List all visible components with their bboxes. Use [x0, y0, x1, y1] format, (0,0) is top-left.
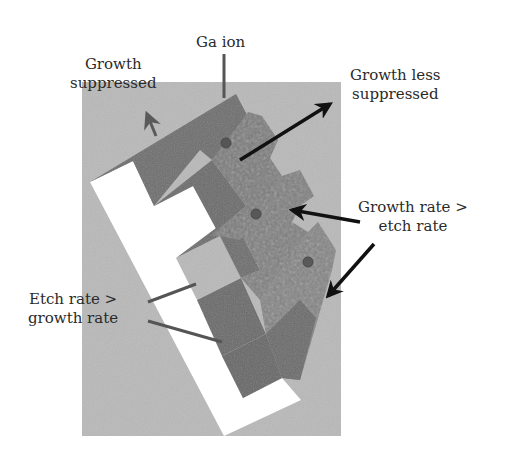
label-etch-rate-gt-growth-rate: Etch rate > growth rate	[28, 290, 118, 328]
label-growth-less-suppressed: Growth less suppressed	[350, 66, 441, 104]
ga-ion-dot	[221, 138, 231, 148]
label-growth-suppressed: Growth suppressed	[70, 55, 156, 93]
label-ga-ion: Ga ion	[196, 33, 245, 52]
ga-ion-dot	[251, 209, 261, 219]
label-growth-rate-gt-etch-rate: Growth rate > etch rate	[358, 198, 468, 236]
ga-ion-dot	[303, 257, 313, 267]
